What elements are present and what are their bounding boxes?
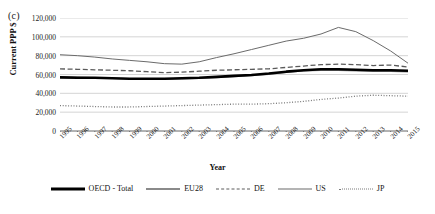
- legend-item[interactable]: US: [278, 184, 326, 193]
- legend-label: DE: [254, 184, 265, 193]
- chart-canvas: [60, 18, 408, 132]
- legend-item[interactable]: OECD - Total: [51, 184, 134, 193]
- legend-item[interactable]: EU28: [146, 184, 203, 193]
- y-tick-label: 20,000: [35, 108, 56, 117]
- y-axis-ticks: 020,00040,00060,00080,000100,000120,000: [0, 0, 56, 214]
- legend-label: OECD - Total: [89, 184, 134, 193]
- series-line: [60, 95, 408, 107]
- y-tick-label: 60,000: [35, 70, 56, 79]
- x-tick-label: 2015: [406, 125, 422, 141]
- series-line: [60, 69, 408, 78]
- y-tick-label: 80,000: [35, 51, 56, 60]
- chart-legend: OECD - TotalEU28DEUSJP: [0, 184, 435, 193]
- x-axis-label: Year: [0, 163, 435, 172]
- legend-item[interactable]: JP: [339, 184, 385, 193]
- figure-panel-c: (c) Current PPP $ 020,00040,00060,00080,…: [0, 0, 435, 214]
- y-tick-label: 120,000: [32, 14, 56, 23]
- y-tick-label: 40,000: [35, 89, 56, 98]
- legend-swatch-icon: [216, 185, 250, 193]
- legend-label: US: [316, 184, 326, 193]
- legend-swatch-icon: [51, 185, 85, 193]
- legend-label: EU28: [184, 184, 203, 193]
- legend-swatch-icon: [146, 185, 180, 193]
- plot-area: [60, 18, 408, 131]
- legend-item[interactable]: DE: [216, 184, 265, 193]
- legend-swatch-icon: [339, 185, 373, 193]
- legend-swatch-icon: [278, 185, 312, 193]
- series-line: [60, 27, 408, 64]
- legend-label: JP: [377, 184, 385, 193]
- y-tick-label: 0: [52, 127, 56, 136]
- y-tick-label: 100,000: [32, 32, 56, 41]
